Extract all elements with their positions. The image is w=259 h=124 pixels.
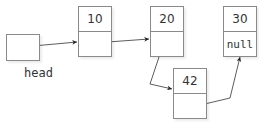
node-value: 42 [174, 69, 206, 94]
head-label: head [24, 66, 53, 80]
node-value: 20 [151, 7, 183, 32]
head-pointer-box [6, 34, 40, 61]
node-next [79, 32, 111, 57]
node-10: 10 [78, 6, 112, 57]
node-value: 10 [79, 7, 111, 32]
node-30: 30 null [223, 6, 257, 57]
node-42: 42 [173, 68, 207, 119]
arrows-layer [0, 0, 259, 124]
node-20: 20 [150, 6, 184, 57]
node-value: 30 [224, 7, 256, 32]
node-next [151, 32, 183, 57]
node-next-null: null [224, 32, 256, 57]
node-next [174, 94, 206, 119]
